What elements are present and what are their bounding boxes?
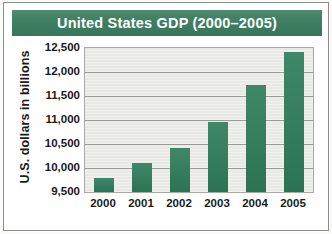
plot-area: [84, 47, 314, 193]
gridline: [85, 168, 313, 169]
y-axis-tick: 11,500: [45, 89, 80, 101]
chart-title: United States GDP (2000–2005): [57, 15, 277, 31]
bar-2001: [132, 163, 152, 192]
gridline: [85, 120, 313, 121]
x-axis-tick-labels: 200020012002200320042005: [84, 195, 314, 217]
bar-2000: [94, 178, 114, 192]
x-axis-tick: 2000: [90, 197, 116, 209]
gridline: [85, 96, 313, 97]
gridline: [85, 72, 313, 73]
bar-2004: [246, 85, 266, 192]
y-axis-tick: 12,500: [45, 41, 80, 53]
y-axis-tick: 12,000: [45, 65, 80, 77]
y-axis-tick: 9,500: [51, 185, 80, 197]
x-axis-tick: 2001: [128, 197, 154, 209]
x-axis-tick: 2002: [166, 197, 192, 209]
x-axis-tick: 2003: [204, 197, 230, 209]
chart-figure: United States GDP (2000–2005) U.S. dolla…: [0, 0, 332, 234]
chart-card: United States GDP (2000–2005) U.S. dolla…: [3, 2, 329, 231]
bar-2003: [208, 122, 228, 192]
bar-2002: [170, 148, 190, 192]
y-axis-label: U.S. dollars in billions: [14, 41, 36, 193]
x-axis-tick: 2005: [280, 197, 306, 209]
chart-title-band: United States GDP (2000–2005): [12, 10, 322, 36]
y-axis-tick: 11,000: [45, 113, 80, 125]
chart-body: U.S. dollars in billions 9,50010,00010,5…: [12, 41, 322, 227]
y-axis-label-text: U.S. dollars in billions: [18, 51, 32, 184]
gridline: [85, 144, 313, 145]
y-axis-tick: 10,000: [45, 161, 80, 173]
x-axis-tick: 2004: [242, 197, 268, 209]
y-axis-tick-labels: 9,50010,00010,50011,00011,50012,00012,50…: [36, 41, 82, 193]
y-axis-tick: 10,500: [45, 137, 80, 149]
bar-2005: [284, 52, 304, 192]
